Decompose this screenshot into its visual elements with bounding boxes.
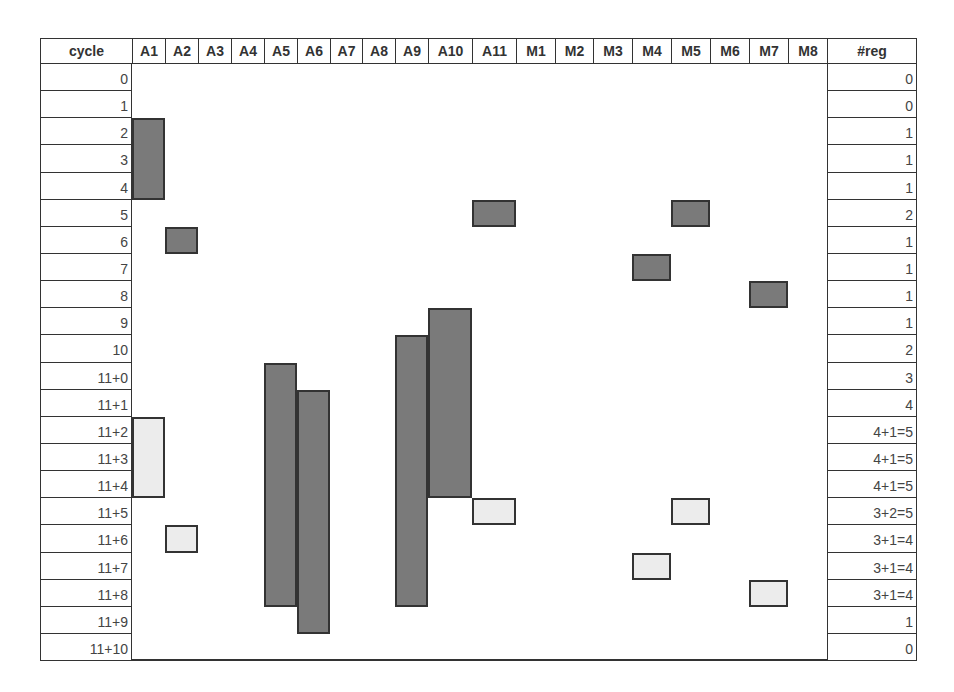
column-header-m6: M6 xyxy=(710,38,749,64)
register-schedule-diagram: cycleA1A2A3A4A5A6A7A8A9A10A11M1M2M3M4M5M… xyxy=(0,0,954,692)
register-lifetime-block-a5-dark xyxy=(264,363,297,607)
cycle-cell: 10 xyxy=(40,335,132,362)
reg-header: #reg xyxy=(827,38,917,64)
register-lifetime-block-m7-light xyxy=(749,580,788,607)
cycle-cell: 4 xyxy=(40,173,132,200)
reg-count-cell: 3+1=4 xyxy=(827,525,917,552)
cycle-cell: 11+5 xyxy=(40,498,132,525)
reg-count-cell: 1 xyxy=(827,281,917,308)
column-header-a2: A2 xyxy=(165,38,198,64)
register-lifetime-block-m7-dark xyxy=(749,281,788,308)
register-lifetime-block-m4-dark xyxy=(632,254,671,281)
cycle-cell: 11+9 xyxy=(40,607,132,634)
register-lifetime-block-a11-light xyxy=(472,498,516,525)
reg-count-cell: 3+1=4 xyxy=(827,580,917,607)
reg-count-cell: 4 xyxy=(827,390,917,417)
column-header-a6: A6 xyxy=(297,38,330,64)
reg-count-cell: 4+1=5 xyxy=(827,417,917,444)
cycle-cell: 11+1 xyxy=(40,390,132,417)
column-header-a10: A10 xyxy=(428,38,472,64)
column-header-m5: M5 xyxy=(671,38,710,64)
column-header-a11: A11 xyxy=(472,38,516,64)
cycle-cell: 11+10 xyxy=(40,634,132,661)
cycle-cell: 0 xyxy=(40,64,132,91)
register-lifetime-block-m4-light xyxy=(632,553,671,580)
cycle-cell: 11+7 xyxy=(40,553,132,580)
cycle-header: cycle xyxy=(40,38,132,64)
register-lifetime-block-a2-light xyxy=(165,525,198,552)
column-header-a7: A7 xyxy=(330,38,362,64)
cycle-cell: 11+3 xyxy=(40,444,132,471)
cycle-cell: 11+4 xyxy=(40,471,132,498)
cycle-cell: 11+8 xyxy=(40,580,132,607)
register-lifetime-block-a6-dark xyxy=(297,390,330,634)
reg-count-cell: 1 xyxy=(827,308,917,335)
cycle-cell: 3 xyxy=(40,145,132,172)
column-header-a9: A9 xyxy=(395,38,428,64)
column-header-m7: M7 xyxy=(749,38,788,64)
reg-count-cell: 3 xyxy=(827,363,917,390)
cycle-cell: 1 xyxy=(40,91,132,118)
register-lifetime-block-m5-dark xyxy=(671,200,710,227)
cycle-cell: 2 xyxy=(40,118,132,145)
register-lifetime-block-a9-dark xyxy=(395,335,428,606)
reg-count-cell: 1 xyxy=(827,173,917,200)
reg-count-cell: 2 xyxy=(827,200,917,227)
cycle-cell: 8 xyxy=(40,281,132,308)
reg-count-cell: 0 xyxy=(827,91,917,118)
reg-count-cell: 1 xyxy=(827,145,917,172)
reg-count-cell: 4+1=5 xyxy=(827,471,917,498)
column-header-m1: M1 xyxy=(516,38,555,64)
reg-count-cell: 2 xyxy=(827,335,917,362)
cycle-cell: 9 xyxy=(40,308,132,335)
column-header-m4: M4 xyxy=(632,38,671,64)
reg-count-cell: 1 xyxy=(827,227,917,254)
cycle-cell: 11+0 xyxy=(40,363,132,390)
reg-count-cell: 1 xyxy=(827,607,917,634)
reg-count-cell: 3+1=4 xyxy=(827,553,917,580)
register-lifetime-block-a10-dark xyxy=(428,308,472,498)
register-lifetime-block-a1-dark xyxy=(132,118,165,199)
column-header-m2: M2 xyxy=(555,38,593,64)
register-lifetime-block-a1-light xyxy=(132,417,165,498)
column-header-m3: M3 xyxy=(593,38,632,64)
column-header-m8: M8 xyxy=(788,38,827,64)
column-header-a3: A3 xyxy=(198,38,231,64)
column-header-a5: A5 xyxy=(264,38,297,64)
column-header-a4: A4 xyxy=(231,38,264,64)
cycle-cell: 11+2 xyxy=(40,417,132,444)
reg-count-cell: 4+1=5 xyxy=(827,444,917,471)
reg-count-cell: 0 xyxy=(827,64,917,91)
cycle-cell: 5 xyxy=(40,200,132,227)
reg-count-cell: 3+2=5 xyxy=(827,498,917,525)
column-header-a1: A1 xyxy=(132,38,165,64)
reg-count-cell: 1 xyxy=(827,254,917,281)
reg-count-cell: 1 xyxy=(827,118,917,145)
reg-count-cell: 0 xyxy=(827,634,917,661)
register-lifetime-block-m5-light xyxy=(671,498,710,525)
cycle-cell: 11+6 xyxy=(40,525,132,552)
register-lifetime-block-a11-dark xyxy=(472,200,516,227)
column-header-a8: A8 xyxy=(362,38,395,64)
register-lifetime-block-a2-dark xyxy=(165,227,198,254)
cycle-cell: 7 xyxy=(40,254,132,281)
cycle-cell: 6 xyxy=(40,227,132,254)
schedule-grid xyxy=(132,64,827,661)
